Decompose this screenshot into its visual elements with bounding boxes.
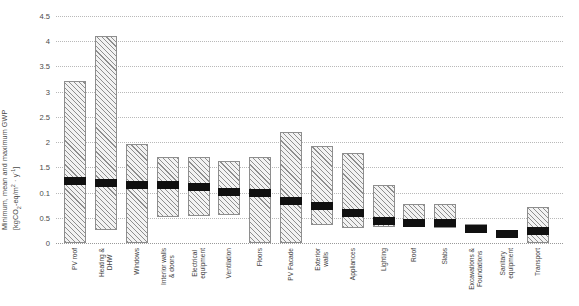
bar-range-floors <box>249 157 271 243</box>
bar-group <box>126 16 148 243</box>
x-axis-label-slot: Transport <box>527 246 549 306</box>
x-axis-tick-label-line: walls <box>322 248 330 271</box>
x-axis-label-slot: Roof <box>403 246 425 306</box>
bar-group <box>157 16 179 243</box>
bar-mean-marker <box>373 217 395 225</box>
y-axis-tick-label: 0 <box>46 239 50 248</box>
x-axis-label-slot: Windows <box>126 246 148 306</box>
x-axis-tick-label: Excavations &Foundations <box>468 248 483 290</box>
x-axis-label-slot: Appliances <box>342 246 364 306</box>
x-axis-label-slot: Excavations &Foundations <box>465 246 487 306</box>
bar-range-pv-roof <box>64 81 86 243</box>
x-axis-tick-label-line: Sanitary <box>499 248 507 279</box>
bar-range-exterior-walls <box>311 146 333 225</box>
bar-mean-marker <box>280 197 302 205</box>
x-axis-tick-label-line: Ventilation <box>226 248 234 278</box>
bar-mean-marker <box>157 181 179 189</box>
bar-group <box>434 16 456 243</box>
bar-mean-marker <box>95 179 117 187</box>
y-axis-tick-label: 4 <box>46 37 50 46</box>
bar-mean-marker <box>527 227 549 235</box>
y-axis-tick-label: 0.1 <box>39 188 50 197</box>
bar-mean-marker <box>342 209 364 217</box>
bar-group <box>373 16 395 243</box>
x-axis-tick-label-line: Electrical <box>191 248 199 279</box>
plot-area <box>56 16 563 243</box>
y-axis-tick-label: 1.5 <box>39 163 50 172</box>
bar-group <box>218 16 240 243</box>
x-axis-tick-label: Appliances <box>349 248 357 280</box>
bar-mean-marker <box>218 188 240 196</box>
bar-group <box>280 16 302 243</box>
chart-figure: Minimum, mean and maximum GWP [kgCO2-eq/… <box>0 0 579 306</box>
x-axis-tick-label-line: Exterior <box>314 248 322 271</box>
x-axis-tick-label: PV Facade <box>287 248 295 281</box>
x-axis-tick-label: Floors <box>256 248 264 266</box>
bar-mean-marker <box>249 189 271 197</box>
x-axis-label-slot: Floors <box>249 246 271 306</box>
bar-mean-marker <box>126 181 148 189</box>
bar-mean-marker <box>434 219 456 227</box>
x-axis-tick-label-line: Appliances <box>349 248 357 280</box>
y-axis-tick-label: 3.5 <box>39 62 50 71</box>
x-axis-tick-labels: PV roofHeating &DHWWindowsInterior walls… <box>56 246 563 306</box>
x-axis-label-slot: Electricalequipment <box>188 246 210 306</box>
y-axis-title: Minimum, mean and maximum GWP [kgCO2-eq/… <box>0 110 24 230</box>
y-axis-tick-labels: 4.543.532.521.50.10.50 <box>26 16 54 243</box>
y-axis-title-line-1: Minimum, mean and maximum GWP <box>0 110 9 230</box>
x-axis-tick-label-line: DHW <box>106 248 114 277</box>
bar-mean-marker <box>465 225 487 233</box>
x-axis-tick-label-line: Windows <box>133 248 141 275</box>
x-axis-label-slot: Heating &DHW <box>95 246 117 306</box>
x-axis-label-slot: Slabs <box>434 246 456 306</box>
x-axis-tick-label: Slabs <box>441 248 449 265</box>
x-axis-tick-label-line: Lighting <box>380 248 388 271</box>
bar-mean-marker <box>188 183 210 191</box>
x-axis-tick-label: Transport <box>534 248 542 276</box>
y-axis-title-line-2: [kgCO2-eq/m2 · y-1] <box>9 110 24 230</box>
x-axis-tick-label-line: Heating & <box>99 248 107 277</box>
x-axis-tick-label-line: equipment <box>199 248 207 279</box>
y-axis-tick-label: 4.5 <box>39 12 50 21</box>
x-axis-tick-label: Windows <box>133 248 141 275</box>
x-axis-tick-label: Electricalequipment <box>191 248 206 279</box>
bar-group <box>527 16 549 243</box>
x-axis-label-slot: PV roof <box>64 246 86 306</box>
bar-range-pv-facade <box>280 132 302 243</box>
x-axis-tick-label-line: equipment <box>507 248 515 279</box>
x-axis-tick-label: Interior walls& doors <box>160 248 175 285</box>
y-axis-tick-label: 2 <box>46 138 50 147</box>
bar-group <box>95 16 117 243</box>
x-axis-tick-label-line: Transport <box>534 248 542 276</box>
bar-group <box>496 16 518 243</box>
bar-group <box>403 16 425 243</box>
x-axis-tick-label: Heating &DHW <box>99 248 114 277</box>
x-axis-tick-label-line: PV Facade <box>287 248 295 281</box>
x-axis-label-slot: PV Facade <box>280 246 302 306</box>
x-axis-tick-label-line: Floors <box>256 248 264 266</box>
x-axis-tick-label: PV roof <box>72 248 80 270</box>
x-axis-label-slot: Interior walls& doors <box>157 246 179 306</box>
x-axis-tick-label: Roof <box>411 248 419 262</box>
x-axis-tick-label-line: Interior walls <box>160 248 168 285</box>
x-axis-tick-label-line: Foundations <box>476 248 484 290</box>
x-axis-tick-label: Exteriorwalls <box>314 248 329 271</box>
y-axis-tick-label: 3 <box>46 87 50 96</box>
bar-range-windows <box>126 144 148 243</box>
x-axis-tick-label: Lighting <box>380 248 388 271</box>
y-axis-tick-label: 0.5 <box>39 213 50 222</box>
x-axis-tick-label: Sanitaryequipment <box>499 248 514 279</box>
x-axis-tick-label-line: & doors <box>168 248 176 285</box>
bar-group <box>249 16 271 243</box>
x-axis-tick-label-line: Excavations & <box>468 248 476 290</box>
x-axis-tick-label: Ventilation <box>226 248 234 278</box>
bar-range-heating-dhw <box>95 36 117 230</box>
y-axis-tick-label: 2.5 <box>39 112 50 121</box>
x-axis-baseline <box>56 243 563 244</box>
x-axis-tick-label-line: Roof <box>411 248 419 262</box>
bar-group <box>188 16 210 243</box>
bar-group <box>465 16 487 243</box>
bar-range-transport <box>527 207 549 243</box>
bar-mean-marker <box>311 202 333 210</box>
x-axis-label-slot: Exteriorwalls <box>311 246 333 306</box>
